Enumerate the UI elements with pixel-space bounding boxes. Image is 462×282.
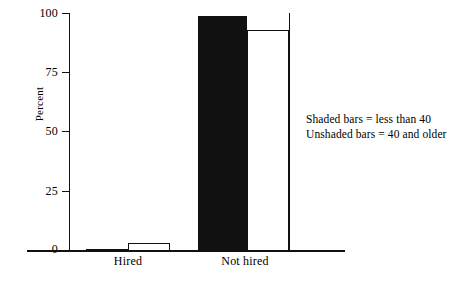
x-tick-label-not-hired: Not hired xyxy=(203,254,287,268)
y-tick-label-100: 100 xyxy=(18,7,58,19)
bar-chart-figure: Percent 100 75 50 25 0 Hired Not hired S… xyxy=(0,0,462,282)
legend-line-shaded: Shaded bars = less than 40 xyxy=(306,112,458,127)
y-tick-label-50: 50 xyxy=(18,125,58,137)
y-tick-mark-100 xyxy=(62,13,70,14)
legend: Shaded bars = less than 40 Unshaded bars… xyxy=(306,112,458,142)
bar-not-hired-unshaded xyxy=(247,30,289,251)
x-axis-right-line xyxy=(289,13,290,251)
y-tick-mark-50 xyxy=(62,131,70,132)
y-tick-label-75: 75 xyxy=(18,66,58,78)
x-axis-line xyxy=(27,250,345,252)
y-tick-mark-75 xyxy=(62,72,70,73)
x-tick-label-hired: Hired xyxy=(88,254,168,268)
y-tick-mark-25 xyxy=(62,191,70,192)
legend-line-unshaded: Unshaded bars = 40 and older xyxy=(306,127,458,142)
bar-not-hired-shaded xyxy=(198,16,247,251)
y-tick-label-0: 0 xyxy=(18,243,58,255)
y-tick-label-25: 25 xyxy=(18,185,58,197)
